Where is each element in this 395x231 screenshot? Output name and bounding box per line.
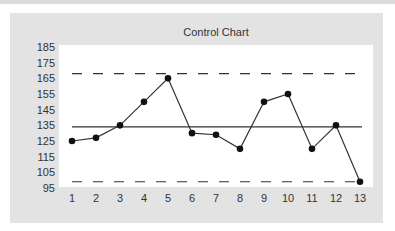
- y-tick-label: 95: [43, 182, 55, 194]
- data-point-marker: [237, 146, 244, 153]
- x-tick-label: 9: [261, 192, 267, 204]
- y-tick-label: 135: [37, 119, 55, 131]
- y-tick-label: 105: [37, 166, 55, 178]
- x-tick-label: 1: [69, 192, 75, 204]
- data-point-marker: [333, 122, 340, 129]
- data-point-marker: [117, 122, 124, 129]
- data-point-marker: [261, 99, 268, 106]
- y-tick-label: 155: [37, 88, 55, 100]
- data-point-marker: [93, 135, 100, 142]
- chart-title: Control Chart: [183, 26, 248, 38]
- x-tick-label: 10: [282, 192, 294, 204]
- data-point-marker: [141, 99, 148, 106]
- x-tick-label: 4: [141, 192, 147, 204]
- y-tick-label: 125: [37, 135, 55, 147]
- x-tick-label: 6: [189, 192, 195, 204]
- y-tick-label: 165: [37, 72, 55, 84]
- x-tick-label: 3: [117, 192, 123, 204]
- y-tick-label: 115: [37, 151, 55, 163]
- data-point-marker: [309, 146, 316, 153]
- data-point-marker: [285, 91, 292, 98]
- y-tick-label: 185: [37, 41, 55, 53]
- y-tick-label: 145: [37, 104, 55, 116]
- data-point-marker: [357, 178, 364, 185]
- x-tick-label: 2: [93, 192, 99, 204]
- plot-area: [59, 45, 373, 187]
- data-point-marker: [213, 131, 220, 138]
- control-chart: Control Chart185175165155145135125115105…: [0, 0, 395, 231]
- data-point-marker: [69, 138, 76, 145]
- x-tick-label: 7: [213, 192, 219, 204]
- x-tick-label: 13: [354, 192, 366, 204]
- x-tick-label: 8: [237, 192, 243, 204]
- x-tick-label: 12: [330, 192, 342, 204]
- x-tick-label: 5: [165, 192, 171, 204]
- y-tick-label: 175: [37, 57, 55, 69]
- data-point-marker: [165, 75, 172, 82]
- x-tick-label: 11: [306, 192, 317, 204]
- data-point-marker: [189, 130, 196, 137]
